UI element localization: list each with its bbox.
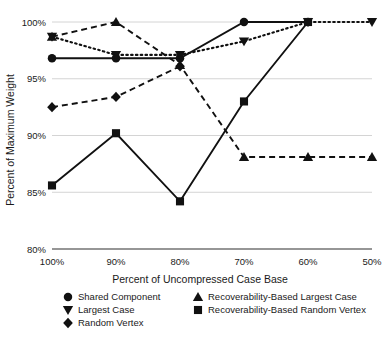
- y-axis-title: Percent of Maximum Weight: [4, 74, 16, 206]
- x-tick-label: 100%: [40, 256, 65, 267]
- legend-label: Random Vertex: [78, 317, 144, 328]
- chart-container: 100%95%90%85%80% 100%90%80%70%60%50% Sha…: [0, 0, 390, 342]
- marker-shared-component: [48, 54, 56, 62]
- gridlines: [52, 22, 372, 249]
- y-tick-label: 95%: [27, 73, 47, 84]
- y-axis-tick-labels: 100%95%90%85%80%: [22, 17, 47, 255]
- chart-svg: 100%95%90%85%80% 100%90%80%70%60%50% Sha…: [0, 0, 390, 342]
- marker-shared-component: [240, 18, 248, 26]
- x-tick-label: 60%: [298, 256, 318, 267]
- x-tick-label: 90%: [106, 256, 126, 267]
- legend-marker-triangle-down: [63, 306, 73, 315]
- legend-marker-circle: [64, 293, 72, 301]
- series-markers: [47, 17, 377, 205]
- marker-recoverability-based-largest-case: [175, 60, 185, 69]
- y-tick-label: 80%: [27, 244, 47, 255]
- series-line-recoverability-based-random-vertex: [52, 22, 308, 201]
- legend-marker-triangle-up: [193, 292, 203, 301]
- legend: Shared ComponentRecoverability-Based Lar…: [63, 291, 366, 328]
- marker-recoverability-based-largest-case: [367, 152, 377, 161]
- marker-random-vertex: [47, 102, 57, 112]
- legend-label: Largest Case: [78, 304, 135, 315]
- marker-recoverability-based-largest-case: [111, 17, 121, 26]
- legend-marker-square: [194, 306, 202, 314]
- marker-recoverability-based-random-vertex: [48, 181, 56, 189]
- marker-recoverability-based-random-vertex: [304, 18, 312, 26]
- marker-recoverability-based-largest-case: [239, 152, 249, 161]
- legend-marker-diamond: [63, 318, 73, 328]
- marker-recoverability-based-random-vertex: [112, 129, 120, 137]
- series-lines: [52, 22, 372, 201]
- series-line-recoverability-based-largest-case: [52, 22, 372, 157]
- series-line-largest-case: [52, 22, 372, 55]
- x-axis-title: Percent of Uncompressed Case Base: [112, 273, 288, 285]
- x-axis-tick-labels: 100%90%80%70%60%50%: [40, 256, 382, 267]
- marker-random-vertex: [111, 92, 121, 102]
- legend-label: Recoverability-Based Largest Case: [208, 291, 357, 302]
- y-tick-label: 100%: [22, 17, 47, 28]
- marker-recoverability-based-random-vertex: [240, 97, 248, 105]
- x-tick-label: 50%: [362, 256, 382, 267]
- x-tick-label: 70%: [234, 256, 254, 267]
- y-tick-label: 85%: [27, 187, 47, 198]
- marker-recoverability-based-random-vertex: [176, 197, 184, 205]
- y-tick-label: 90%: [27, 130, 47, 141]
- x-tick-label: 80%: [170, 256, 190, 267]
- legend-label: Recoverability-Based Random Vertex: [208, 304, 366, 315]
- legend-label: Shared Component: [78, 291, 161, 302]
